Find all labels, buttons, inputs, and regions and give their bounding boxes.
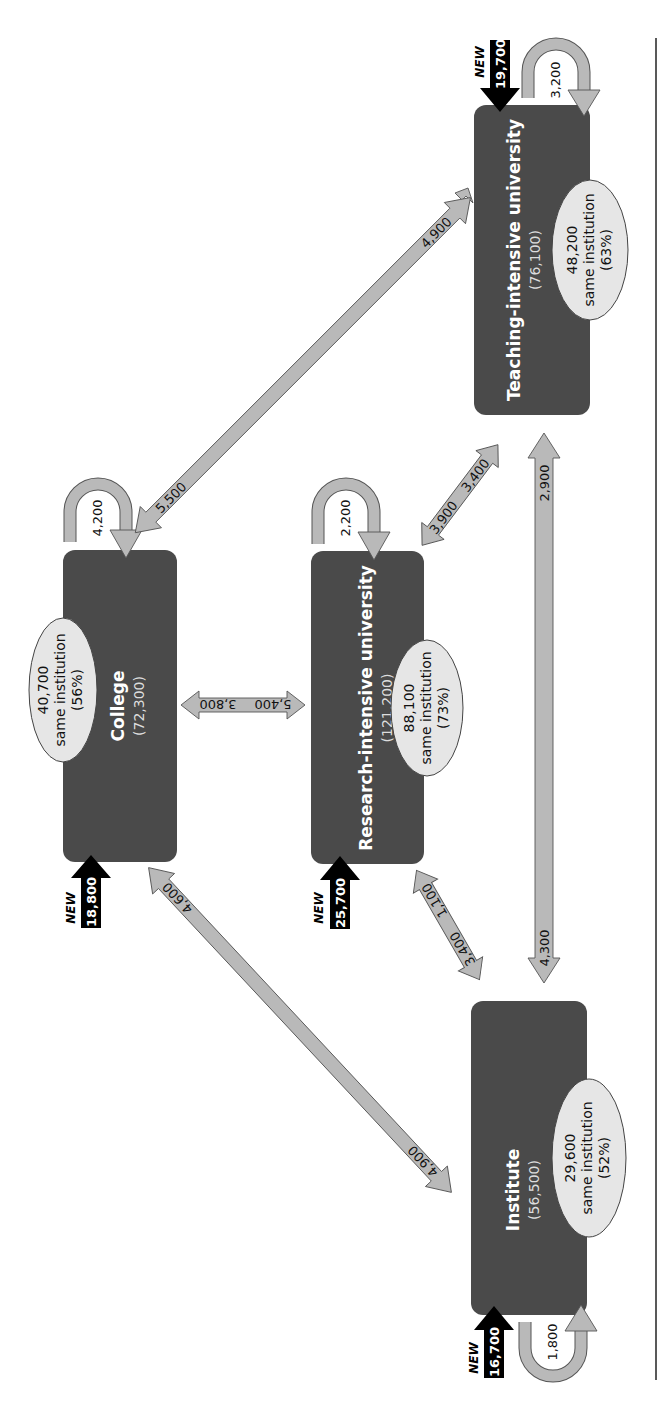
- teaching-new-value: 19,700: [493, 39, 508, 89]
- flow-research-to-institute: 3,400: [447, 929, 479, 969]
- college-title: College: [108, 670, 128, 741]
- double-arrow-icon: [404, 863, 491, 986]
- college-new-label: NEW: [64, 892, 78, 924]
- research-same-label: same institution: [418, 651, 434, 764]
- research-same-pct: (73%): [435, 687, 451, 729]
- teaching-title: Teaching-intensive university: [504, 119, 524, 401]
- college-total: (72,300): [131, 676, 147, 736]
- research-loop-value: 2,200: [338, 499, 353, 536]
- teaching-same-value: 48,200: [564, 226, 580, 275]
- node-teaching: Teaching-intensive university (76,100) 4…: [473, 39, 628, 415]
- research-new-label: NEW: [312, 892, 326, 924]
- college-new-value: 18,800: [84, 877, 99, 927]
- flow-college-to-research: 5,400: [254, 697, 291, 712]
- double-arrow-icon: [411, 436, 509, 553]
- research-new-value: 25,700: [333, 878, 348, 928]
- node-research: Research-intensive university (121,200) …: [311, 484, 463, 929]
- node-college: College (72,300) 40,700 same institution…: [29, 484, 177, 928]
- flow-arrow-research-teaching: 3,400 3,900: [411, 436, 509, 553]
- college-loop-value: 4,200: [90, 499, 105, 536]
- teaching-total: (76,100): [527, 230, 543, 290]
- flow-research-to-college: 3,800: [199, 697, 236, 712]
- flow-institute-to-college: 4,600: [159, 879, 195, 916]
- institute-new-value: 16,700: [487, 1327, 502, 1377]
- institute-total: (56,500): [526, 1160, 542, 1220]
- flow-arrow-college-research: 3,800 5,400: [181, 691, 305, 719]
- flow-institute-to-teaching: 2,900: [537, 464, 552, 501]
- institute-same-pct: (52%): [596, 1137, 612, 1179]
- flow-teaching-to-institute: 4,300: [537, 929, 552, 966]
- flow-arrow-college-teaching: 4,900 5,500: [125, 187, 481, 543]
- institute-same-label: same institution: [579, 1101, 595, 1214]
- flow-college-to-institute: 4,900: [405, 1143, 441, 1180]
- teaching-new-label: NEW: [473, 46, 487, 78]
- research-same-value: 88,100: [401, 684, 417, 733]
- flow-arrow-college-institute: 4,600 4,900: [138, 857, 463, 1202]
- flow-institute-to-research: 1,100: [419, 881, 451, 921]
- institute-new-label: NEW: [467, 1342, 481, 1374]
- teaching-same-pct: (63%): [598, 229, 614, 271]
- teaching-loop-value: 3,200: [548, 61, 563, 98]
- flow-arrow-institute-teaching: 2,900 4,300: [528, 433, 560, 983]
- institute-same-value: 29,600: [562, 1134, 578, 1183]
- double-arrow-icon: [528, 433, 560, 983]
- flow-college-to-teaching: 4,900: [418, 214, 455, 251]
- institute-title: Institute: [503, 1149, 523, 1231]
- college-same-label: same institution: [52, 633, 68, 746]
- flow-arrow-institute-research: 1,100 3,400: [404, 863, 491, 986]
- institute-loop-value: 1,800: [545, 1323, 560, 1360]
- flow-research-to-teaching: 3,400: [458, 456, 492, 495]
- flow-diagram: Teaching-intensive university (76,100) 4…: [0, 0, 660, 1415]
- flow-teaching-to-research: 3,900: [426, 498, 460, 537]
- flow-teaching-to-college: 5,500: [153, 479, 190, 516]
- research-title: Research-intensive university: [356, 565, 376, 851]
- college-same-pct: (56%): [69, 669, 85, 711]
- college-same-value: 40,700: [35, 666, 51, 715]
- teaching-same-label: same institution: [581, 193, 597, 306]
- node-institute: Institute (56,500) 29,600 same instituti…: [467, 1001, 626, 1378]
